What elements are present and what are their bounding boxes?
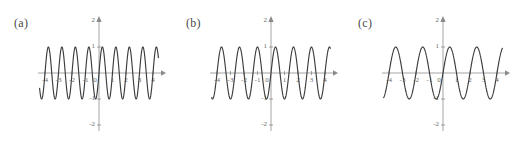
- x-tick-label: -2: [69, 76, 75, 84]
- plot-a-svg: -4 -3 -2 -1 0 1 2 3 4 2 1 -1 -2: [0, 0, 172, 144]
- y-tick-label: 2: [436, 16, 440, 24]
- x-tick-label: 0: [265, 76, 269, 84]
- x-tick-label: -1: [83, 76, 89, 84]
- plot-c-svg: -4 -3 -2 -1 0 1 2 3 4 2 1 -1 -2: [344, 0, 516, 144]
- x-tick-label: 0: [437, 76, 441, 84]
- y-tick-label: 2: [264, 16, 268, 24]
- figure-three-sine-plots: (a) -4 -3 -2 -1 0: [0, 0, 516, 144]
- y-tick-label: -2: [89, 120, 95, 128]
- plot-b-axes: [210, 16, 338, 131]
- plot-panel-b: (b) -4 -3 -2 -1 0: [172, 0, 344, 144]
- plot-panel-c: (c) -4 -3 -2 -1 0: [344, 0, 516, 144]
- plot-panel-a: (a) -4 -3 -2 -1 0: [0, 0, 172, 144]
- x-tick-label: -1: [255, 76, 261, 84]
- x-tick-label: 1: [283, 76, 287, 84]
- y-tick-label: 1: [264, 42, 268, 50]
- x-tick-label: -4: [214, 76, 220, 84]
- x-axis-arrow-a: [161, 70, 166, 75]
- y-tick-label: -2: [433, 120, 439, 128]
- x-tick-label: -4: [42, 76, 48, 84]
- x-axis-arrow-c: [505, 70, 510, 75]
- plot-b-svg: -4 -3 -2 -1 0 1 2 3 4 2 1 -1 -2: [172, 0, 344, 144]
- y-tick-label: -2: [261, 120, 267, 128]
- y-tick-label: 1: [436, 42, 440, 50]
- y-tick-label: 1: [92, 42, 96, 50]
- x-tick-label: 0: [93, 76, 97, 84]
- x-tick-label: -3: [56, 76, 62, 84]
- x-tick-label: 3: [310, 76, 314, 84]
- x-axis-arrow-b: [333, 70, 338, 75]
- plot-c-axes: [382, 16, 510, 131]
- x-tick-label: -3: [228, 76, 234, 84]
- y-tick-label: -1: [261, 94, 267, 102]
- y-tick-label: 2: [92, 16, 96, 24]
